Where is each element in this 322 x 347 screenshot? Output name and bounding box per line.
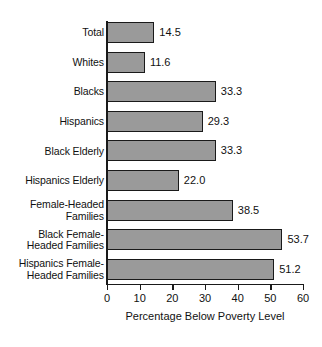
bar-value-label: 51.2 xyxy=(279,259,300,280)
category-label: Hispanics xyxy=(4,116,104,128)
bar xyxy=(107,229,282,250)
category-label: Total xyxy=(4,27,104,39)
x-axis-tick xyxy=(205,285,206,290)
bar-value-label: 33.3 xyxy=(221,81,242,102)
x-axis-tick-label: 50 xyxy=(255,292,285,304)
bar xyxy=(107,22,154,43)
x-axis-tick xyxy=(172,285,173,290)
x-axis-title-text: Percentage Below Poverty Level xyxy=(38,310,285,322)
x-axis-tick-label: 60 xyxy=(288,292,318,304)
x-axis-tick-label: 40 xyxy=(223,292,253,304)
category-label: Hispanics Elderly xyxy=(4,175,104,187)
bar-value-label: 53.7 xyxy=(287,229,308,250)
x-axis-tick xyxy=(107,285,108,290)
x-axis-title: Percentage Below Poverty Level xyxy=(0,310,322,322)
category-label: Blacks xyxy=(4,86,104,98)
bar xyxy=(107,200,233,221)
bar xyxy=(107,111,203,132)
x-axis-tick xyxy=(140,285,141,290)
bar xyxy=(107,170,179,191)
x-axis-tick-label: 30 xyxy=(190,292,220,304)
bar xyxy=(107,52,145,73)
bar-value-label: 38.5 xyxy=(238,200,259,221)
bar-value-label: 33.3 xyxy=(221,140,242,161)
category-label: Whites xyxy=(4,57,104,69)
bar-value-label: 29.3 xyxy=(208,111,229,132)
poverty-bar-chart: Total14.5Whites11.6Blacks33.3Hispanics29… xyxy=(0,0,322,347)
bar-value-label: 11.6 xyxy=(150,52,171,73)
plot-area: Total14.5Whites11.6Blacks33.3Hispanics29… xyxy=(0,0,322,347)
bar xyxy=(107,81,216,102)
x-axis-tick-label: 20 xyxy=(157,292,187,304)
x-axis-tick xyxy=(270,285,271,290)
category-label: Female-Headed Families xyxy=(4,199,104,222)
category-label: Black Elderly xyxy=(4,146,104,158)
bar-value-label: 22.0 xyxy=(184,170,205,191)
bar xyxy=(107,140,216,161)
x-axis-tick-label: 10 xyxy=(125,292,155,304)
category-label: Hispanics Female- Headed Families xyxy=(4,258,104,281)
bar xyxy=(107,259,274,280)
bar-value-label: 14.5 xyxy=(159,22,180,43)
category-label: Black Female- Headed Families xyxy=(4,229,104,252)
x-axis-tick-label: 0 xyxy=(92,292,122,304)
x-axis-tick xyxy=(303,285,304,290)
x-axis-tick xyxy=(238,285,239,290)
